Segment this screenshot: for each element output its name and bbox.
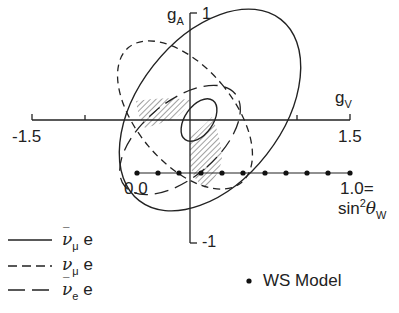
y-axis-label: gA	[167, 6, 184, 23]
sin-text: sin	[338, 199, 360, 218]
legend-subscript: μ	[72, 265, 78, 277]
x-axis-label: gV	[335, 89, 352, 106]
x-max-label: 1.5	[338, 128, 362, 145]
ws-end-label: 1.0=	[340, 180, 374, 197]
y-axis-subscript: A	[176, 15, 183, 27]
x-min-label: -1.5	[12, 128, 41, 145]
nu-symbol: ‾ν	[62, 279, 72, 299]
y-max-label: 1	[202, 6, 211, 22]
ws-legend-label: WS Model	[263, 272, 341, 289]
squared-superscript: 2	[360, 197, 366, 209]
legend-suffix: e	[83, 280, 92, 299]
legend-item-antinumu-e: ‾νμ e	[62, 231, 93, 248]
w-subscript: W	[376, 209, 386, 221]
nu-symbol: ‾ν	[62, 229, 72, 249]
legend-item-antinue-e: ‾νe e	[62, 281, 93, 298]
legend-subscript: e	[72, 290, 78, 302]
ws-legend-marker	[246, 278, 251, 283]
x-axis-subscript: V	[344, 98, 351, 110]
hatched-region-right	[190, 117, 222, 188]
ws-param-label: sin2θW	[338, 200, 387, 217]
legend-item-numu-e: νμ e	[62, 256, 93, 273]
legend-suffix: e	[83, 230, 92, 249]
bar-accent: ‾	[63, 276, 70, 289]
bar-accent: ‾	[63, 226, 70, 239]
y-min-label: -1	[202, 234, 216, 250]
legend-subscript: μ	[72, 240, 78, 252]
theta-symbol: θ	[366, 198, 376, 218]
ws-start-label: 0.0	[124, 180, 148, 197]
nu-symbol: ν	[62, 254, 72, 274]
legend-suffix: e	[83, 255, 92, 274]
coupling-diagram	[0, 0, 399, 313]
